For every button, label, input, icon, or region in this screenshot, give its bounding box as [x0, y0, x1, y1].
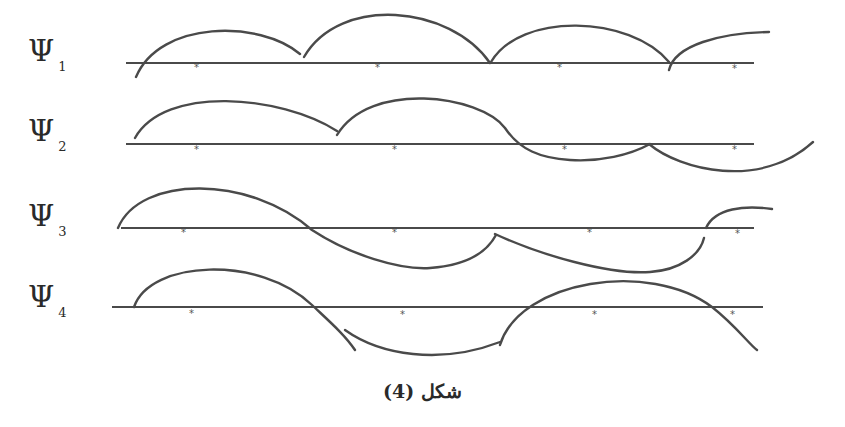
psi-1-lobe-4 [669, 32, 769, 70]
psi-4-node: * [400, 309, 405, 320]
psi-4-lobe-2 [345, 330, 500, 355]
psi-2-node: * [194, 144, 199, 155]
psi-4-node: * [730, 309, 735, 320]
psi-4-lobe-3 [500, 281, 757, 350]
psi-3-node: * [587, 227, 592, 238]
psi-4-lobe-1 [134, 270, 355, 350]
psi-1-lobe-1 [136, 31, 300, 77]
psi-2-node: * [392, 144, 397, 155]
psi-2-node: * [732, 144, 737, 155]
psi-1-node: * [732, 63, 737, 74]
psi-4-row: * * * * [112, 270, 763, 355]
psi-4-node: * [592, 309, 597, 320]
psi-2-lobe-2 [337, 98, 650, 160]
wave-diagram: * * * * * * * * * * * * [0, 0, 845, 427]
psi-1-node: * [557, 62, 562, 73]
psi-3-lobe-2 [495, 234, 704, 272]
psi-2-node: * [562, 144, 567, 155]
psi-3-lobe-3 [706, 207, 772, 228]
psi-4-node: * [189, 308, 194, 319]
wavefunction-figure: Ψ1 Ψ2 Ψ3 Ψ4 * * * * * * * [0, 0, 845, 427]
psi-1-row: * * * * [126, 15, 769, 77]
psi-2-lobe-3 [649, 142, 813, 171]
psi-1-lobe-3 [491, 26, 669, 62]
psi-2-row: * * * * [126, 98, 813, 171]
figure-caption: شكل (4) [0, 380, 845, 402]
psi-1-node: * [194, 62, 199, 73]
psi-3-node: * [181, 227, 186, 238]
psi-1-lobe-2 [304, 15, 490, 63]
psi-2-lobe-1 [135, 101, 337, 138]
psi-3-row: * * * * [118, 188, 772, 272]
psi-3-node: * [735, 228, 740, 239]
psi-1-node: * [375, 62, 380, 73]
psi-3-node: * [392, 227, 397, 238]
